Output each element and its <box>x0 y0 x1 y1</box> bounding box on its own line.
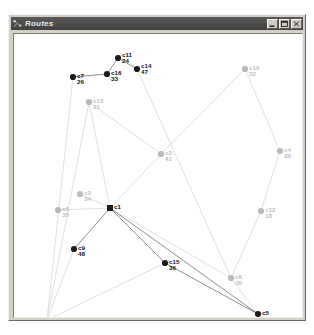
screenshot-root: Routes c1c1124c <box>0 0 314 335</box>
node-demand-label: 26 <box>77 78 84 85</box>
node-demand-label: 24 <box>122 57 129 64</box>
node-demand-label: 41 <box>165 155 172 162</box>
customer-node[interactable] <box>228 275 234 281</box>
node-demand-label: 39 <box>284 152 291 159</box>
customer-node[interactable] <box>258 208 264 214</box>
customer-node[interactable] <box>70 74 76 80</box>
route-edge <box>47 263 165 317</box>
close-button[interactable] <box>291 19 302 29</box>
routes-canvas[interactable]: c1c1124c1447c1633c726c1032c1321c439c241c… <box>13 33 303 318</box>
route-edge <box>47 77 73 317</box>
node-demand-label: 36 <box>169 264 176 271</box>
maximize-button[interactable] <box>279 19 290 29</box>
route-edge <box>231 211 261 278</box>
customer-node[interactable] <box>158 151 164 157</box>
route-edge <box>89 102 110 208</box>
node-id-label: c1 <box>114 203 121 210</box>
node-demand-label: 30 <box>235 279 242 286</box>
route-edge <box>245 69 280 151</box>
node-demand-label: 48 <box>78 250 85 257</box>
route-edge <box>110 208 258 314</box>
customer-node[interactable] <box>77 191 83 197</box>
customer-node[interactable] <box>242 66 248 72</box>
window-title: Routes <box>25 19 266 28</box>
node-demand-label: 18 <box>265 212 272 219</box>
window-titlebar[interactable]: Routes <box>11 17 303 30</box>
route-edge <box>74 208 110 249</box>
node-id-label: c17 <box>51 315 62 317</box>
route-edge <box>261 151 280 211</box>
route-edge <box>137 69 231 278</box>
node-layer <box>44 55 283 317</box>
customer-node[interactable] <box>55 207 61 213</box>
node-demand-label: 32 <box>249 70 256 77</box>
customer-node[interactable] <box>71 246 77 252</box>
route-network-icon <box>13 19 22 28</box>
node-demand-label: 35 <box>62 211 69 218</box>
route-network-graph[interactable]: c1c1124c1447c1633c726c1032c1321c439c241c… <box>14 34 302 317</box>
node-demand-label: 23 <box>262 315 269 317</box>
customer-node[interactable] <box>134 66 140 72</box>
customer-node[interactable] <box>162 260 168 266</box>
node-demand-label: 47 <box>141 68 148 75</box>
customer-node[interactable] <box>104 71 110 77</box>
depot-node[interactable] <box>107 205 113 211</box>
node-demand-label: 21 <box>93 103 100 110</box>
route-edge <box>165 263 258 314</box>
node-demand-label: 33 <box>111 75 118 82</box>
minimize-button[interactable] <box>267 19 278 29</box>
route-edge <box>110 154 161 208</box>
routes-window: Routes c1c1124c <box>8 14 306 321</box>
customer-node[interactable] <box>86 99 92 105</box>
label-layer: c1c1124c1447c1633c726c1032c1321c439c241c… <box>51 51 291 317</box>
customer-node[interactable] <box>115 55 121 61</box>
customer-node[interactable] <box>277 148 283 154</box>
edge-layer <box>47 58 280 317</box>
node-demand-label: 34 <box>84 195 91 202</box>
route-edge <box>110 208 165 263</box>
customer-node[interactable] <box>255 311 261 317</box>
route-edge <box>161 69 245 154</box>
